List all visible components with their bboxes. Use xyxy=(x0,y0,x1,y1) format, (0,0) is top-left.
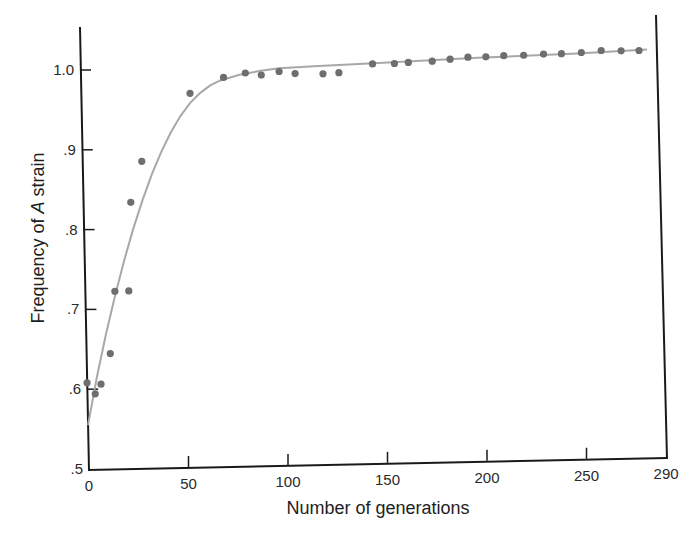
data-point xyxy=(369,60,376,67)
y-tick-label: .9 xyxy=(63,141,76,158)
data-point xyxy=(540,50,547,57)
data-point xyxy=(319,70,326,77)
data-point xyxy=(276,68,283,75)
y-tick-label: .6 xyxy=(69,380,82,397)
data-point xyxy=(635,47,642,54)
chart: .5.6.7.8.91.0 050100150200250290 Number … xyxy=(0,0,693,534)
right-border-line xyxy=(656,15,667,459)
x-axis-title: Number of generations xyxy=(286,498,469,518)
x-tick-label: 100 xyxy=(275,473,300,490)
x-tick-label: 0 xyxy=(85,477,93,494)
x-tick-label: 250 xyxy=(574,467,599,484)
data-point xyxy=(242,69,249,76)
y-tick-label: .7 xyxy=(67,300,80,317)
x-tick-label: 50 xyxy=(180,475,197,492)
data-point xyxy=(107,350,114,357)
data-point xyxy=(138,158,145,165)
data-point xyxy=(464,54,471,61)
data-point xyxy=(558,50,565,57)
y-axis-line xyxy=(80,27,89,470)
data-point xyxy=(111,288,118,295)
fitted-curve xyxy=(88,50,647,426)
data-point xyxy=(520,52,527,59)
data-point xyxy=(220,74,227,81)
y-tick-label: .5 xyxy=(70,460,83,477)
data-point xyxy=(391,60,398,67)
data-point xyxy=(429,58,436,65)
data-point xyxy=(446,56,453,63)
y-ticks: .5.6.7.8.91.0 xyxy=(53,61,98,477)
x-axis: 050100150200250290 xyxy=(85,448,679,494)
data-point xyxy=(127,199,134,206)
data-point xyxy=(83,379,90,386)
data-point xyxy=(598,47,605,54)
data-point xyxy=(500,52,507,59)
data-point xyxy=(335,69,342,76)
data-point xyxy=(292,70,299,77)
y-axis-title: Frequency of A strain xyxy=(28,152,48,323)
data-point xyxy=(92,390,99,397)
x-tick-label: 200 xyxy=(474,469,499,486)
y-tick-label: .8 xyxy=(65,221,78,238)
data-point xyxy=(578,49,585,56)
data-point xyxy=(405,59,412,66)
data-point xyxy=(258,71,265,78)
data-point xyxy=(186,90,193,97)
y-tick-label: 1.0 xyxy=(53,61,74,78)
data-point xyxy=(97,381,104,388)
data-points xyxy=(83,47,642,398)
data-point xyxy=(618,47,625,54)
x-tick-label: 150 xyxy=(375,471,400,488)
x-tick-label: 290 xyxy=(654,465,679,482)
data-point xyxy=(482,53,489,60)
x-ticks: 050100150200250290 xyxy=(85,448,679,494)
data-point xyxy=(125,287,132,294)
